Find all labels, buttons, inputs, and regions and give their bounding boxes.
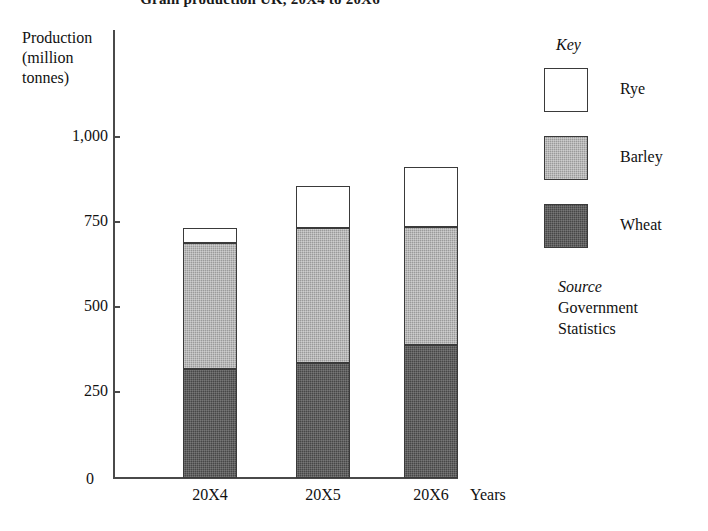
bar-segment-barley-20X5 [296, 228, 350, 363]
y-axis-title: Production (million tonnes) [22, 28, 114, 88]
y-tick-label-250: 250 [8, 383, 108, 399]
y-tick-mark-250 [113, 391, 120, 393]
legend-label-rye: Rye [620, 80, 645, 98]
y-tick-mark-750 [113, 221, 120, 223]
x-tick-label-20X5: 20X5 [278, 486, 368, 504]
y-axis-title-line-1: Production [22, 28, 114, 48]
bar-segment-rye-20X5 [296, 186, 350, 228]
y-axis-line [113, 30, 115, 479]
y-axis-title-line-3: tonnes) [22, 68, 114, 88]
x-tick-label-20X6: 20X6 [386, 486, 476, 504]
x-axis-title: Years [470, 486, 506, 504]
source-line-1: Government [558, 297, 708, 318]
gray-swatch-icon [544, 136, 588, 180]
bar-segment-wheat-20X5 [296, 363, 350, 478]
source-note: Source Government Statistics [558, 276, 708, 339]
dark-gray-swatch-icon [544, 204, 588, 248]
legend-title: Key [556, 36, 581, 54]
source-line-2: Statistics [558, 318, 708, 339]
legend-label-wheat: Wheat [620, 216, 662, 234]
bar-segment-barley-20X6 [404, 227, 458, 345]
y-tick-label-1000: 1,000 [8, 128, 108, 144]
y-tick-mark-500 [113, 306, 120, 308]
legend-item-barley: Barley [520, 136, 708, 182]
legend-item-wheat: Wheat [520, 204, 708, 250]
bar-segment-barley-20X4 [183, 243, 237, 369]
bar-segment-wheat-20X4 [183, 369, 237, 478]
y-axis-title-line-2: (million [22, 48, 114, 68]
white-swatch-icon [544, 68, 588, 112]
legend-item-rye: Rye [520, 68, 708, 114]
bar-segment-wheat-20X6 [404, 345, 458, 478]
y-tick-label-500: 500 [8, 298, 108, 314]
chart-title: Grain production UK, 20X4 to 20X6 [0, 0, 520, 8]
bar-segment-rye-20X6 [404, 167, 458, 227]
source-heading: Source [558, 276, 708, 297]
legend-label-barley: Barley [620, 148, 663, 166]
y-tick-label-750: 750 [8, 213, 108, 229]
y-tick-label-0: 0 [86, 470, 94, 488]
bar-segment-rye-20X4 [183, 228, 237, 243]
y-tick-mark-1000 [113, 136, 120, 138]
x-tick-label-20X4: 20X4 [165, 486, 255, 504]
